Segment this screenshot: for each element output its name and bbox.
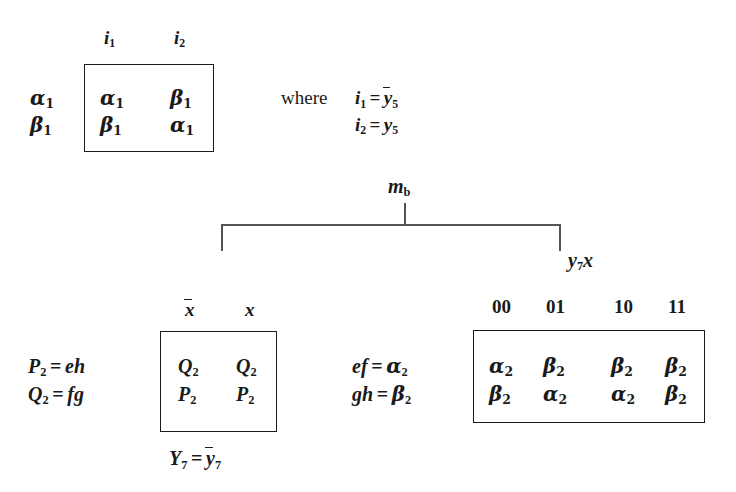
pq-matrix-cell-r1c1: Q2 (178, 356, 199, 379)
where-line-1: i1=y5 (355, 88, 398, 110)
bracket-horizontal-bar (221, 224, 561, 226)
bottom-right-equation-2: gh=β2 (352, 384, 411, 407)
ab-matrix2-cell-r2c3: α2 (611, 384, 635, 407)
pq-matrix-col-header-xbar: x (185, 300, 195, 319)
ab-matrix2-cell-r1c3: β2 (611, 356, 633, 379)
pq-matrix-col-header-x: x (245, 300, 255, 319)
ab-matrix2-col-header-01: 01 (546, 297, 565, 316)
top-matrix-col-header-i2: i2 (174, 28, 185, 50)
top-matrix-cell-r1c1: α1 (100, 88, 124, 111)
pq-matrix-box (160, 331, 277, 432)
bottom-left-equation-2: Q2=fg (28, 384, 84, 407)
ab-matrix2-cell-r2c4: β2 (665, 384, 687, 407)
ab-matrix2-cell-r1c2: β2 (543, 356, 565, 379)
ab-matrix2-col-header-10: 10 (614, 297, 633, 316)
bracket-right-tick (559, 224, 561, 251)
where-keyword: where (281, 88, 327, 107)
where-line-2: i2=y5 (355, 115, 398, 137)
pq-matrix-cell-r1c2: Q2 (236, 356, 257, 379)
ab-matrix2-col-header-11: 11 (668, 297, 686, 316)
bottom-right-equation-1: ef=α2 (352, 356, 408, 379)
top-matrix-cell-r1c2: β1 (170, 88, 192, 111)
ab-matrix2-cell-r2c2: α2 (543, 384, 567, 407)
pq-matrix-cell-r2c1: P2 (178, 384, 196, 407)
top-matrix-row-label-beta: β1 (30, 115, 52, 138)
bracket-end-label-y7x: y7x (568, 250, 593, 273)
ab-matrix2-cell-r1c1: α2 (489, 356, 513, 379)
pq-matrix-caption: Y7=y7 (169, 448, 221, 471)
document-page: i1 i2 α1 β1 α1 β1 β1 α1 where i1=y5 i2=y… (0, 0, 736, 492)
bracket-top-label-mb: mb (388, 176, 410, 199)
top-matrix-row-label-alpha: α1 (30, 88, 54, 111)
ab-matrix2-col-header-00: 00 (492, 297, 511, 316)
bracket-left-tick (221, 224, 223, 251)
top-matrix-cell-r2c1: β1 (100, 115, 122, 138)
bracket-center-tick (404, 203, 406, 225)
top-matrix-cell-r2c2: α1 (170, 115, 194, 138)
pq-matrix-cell-r2c2: P2 (236, 384, 254, 407)
top-matrix-col-header-i1: i1 (104, 28, 115, 50)
bottom-left-equation-1: P2=eh (28, 356, 85, 379)
ab-matrix2-cell-r2c1: β2 (489, 384, 511, 407)
ab-matrix2-cell-r1c4: β2 (665, 356, 687, 379)
